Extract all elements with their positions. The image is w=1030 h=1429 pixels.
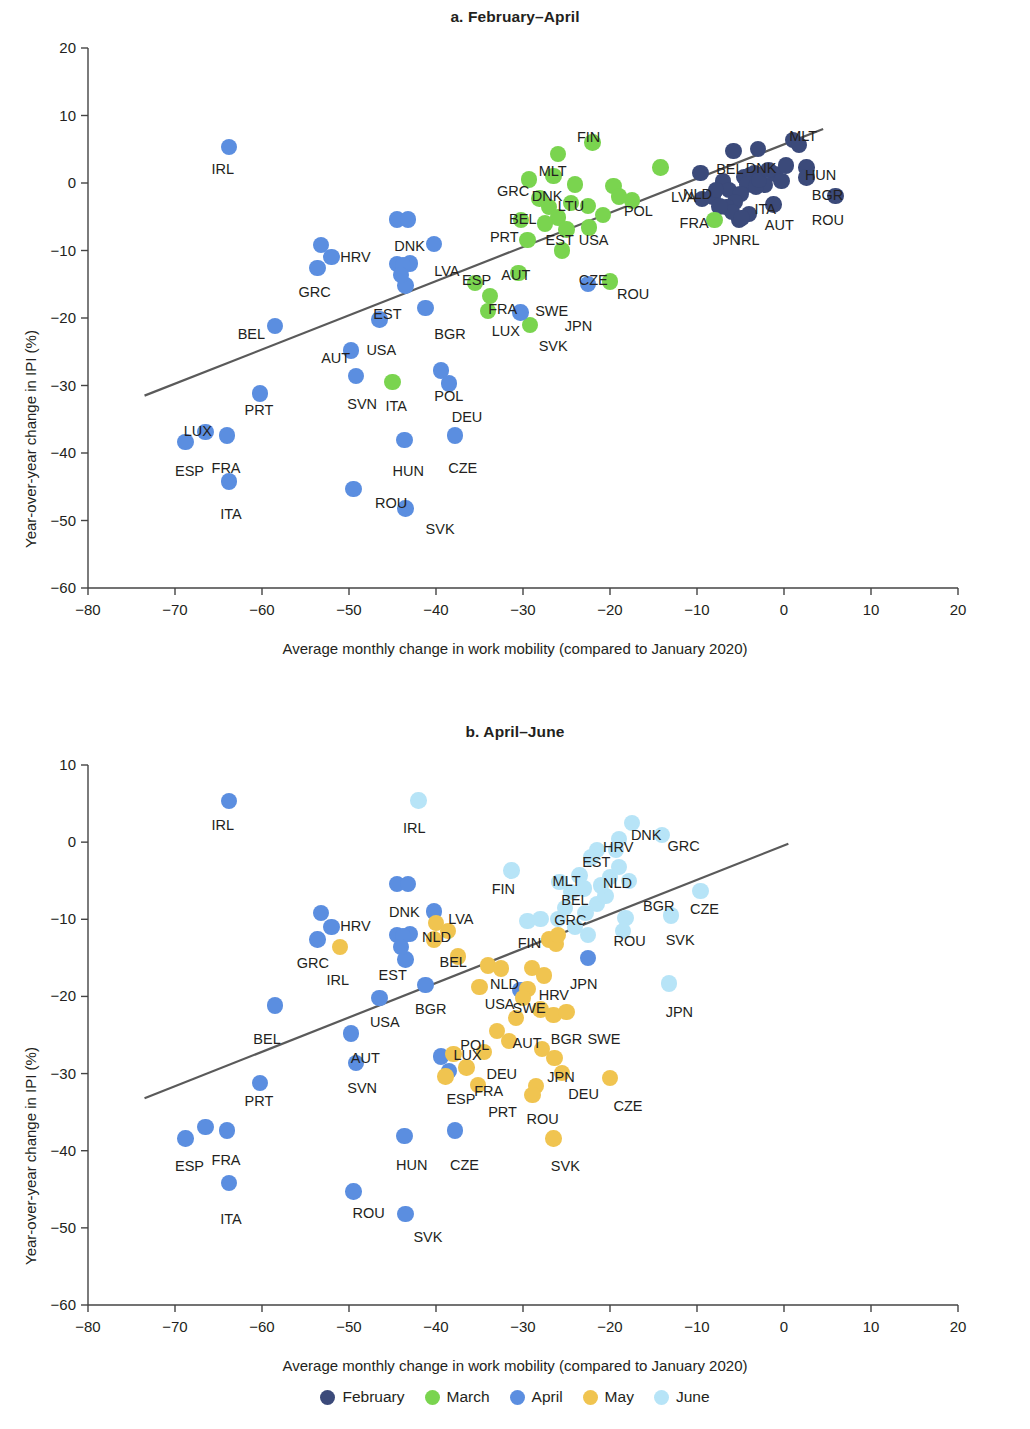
point-label: LVA <box>448 911 473 927</box>
figure-root: a. February–April 20100−10−20−30−40−50−6… <box>0 0 1030 1429</box>
point-label: ESP <box>462 272 491 288</box>
y-axis-tick-label: 0 <box>30 833 76 850</box>
point-label: GRC <box>667 838 699 854</box>
point-label: SWE <box>535 303 568 319</box>
point-label: GRC <box>554 912 586 928</box>
point-label: IRL <box>212 161 235 177</box>
point-label: IRL <box>403 820 426 836</box>
point-label: ITA <box>220 506 241 522</box>
legend-label: June <box>676 1388 710 1406</box>
point-label: LVA <box>434 263 459 279</box>
x-axis-tick-label: −70 <box>145 1318 205 1335</box>
point-label: GRC <box>297 955 329 971</box>
legend-label: April <box>532 1388 563 1406</box>
scatter-point <box>692 165 708 181</box>
x-axis-tick-label: −30 <box>493 1318 553 1335</box>
scatter-point <box>546 1050 562 1066</box>
point-label: POL <box>460 1037 489 1053</box>
point-label: CZE <box>690 901 719 917</box>
point-label: AUT <box>765 217 794 233</box>
legend-item-march[interactable]: March <box>425 1388 490 1406</box>
point-label: DNK <box>389 904 420 920</box>
point-label: IRL <box>212 817 235 833</box>
scatter-point <box>733 210 749 226</box>
point-label: IRL <box>737 232 760 248</box>
point-label: SVK <box>426 521 455 537</box>
point-label: SVN <box>347 396 377 412</box>
point-label: JPN <box>547 1069 574 1085</box>
scatter-point <box>323 249 339 265</box>
point-label: HRV <box>340 249 370 265</box>
point-label: FIN <box>492 881 515 897</box>
point-label: FRA <box>212 1152 241 1168</box>
legend-label: March <box>447 1388 490 1406</box>
scatter-point <box>471 979 487 995</box>
legend-item-february[interactable]: February <box>320 1388 404 1406</box>
point-label: FIN <box>577 129 600 145</box>
scatter-point <box>537 215 553 231</box>
point-label: AUT <box>513 1035 542 1051</box>
point-label: LTU <box>558 198 584 214</box>
point-label: SVK <box>413 1229 442 1245</box>
y-axis-tick-label: −20 <box>30 309 76 326</box>
point-label: AUT <box>351 1050 380 1066</box>
scatter-point <box>532 911 548 927</box>
legend-label: May <box>605 1388 634 1406</box>
y-axis-tick-label: 10 <box>30 107 76 124</box>
scatter-point <box>652 159 668 175</box>
point-label: DEU <box>486 1066 517 1082</box>
point-label: CZE <box>450 1157 479 1173</box>
scatter-point <box>550 146 566 162</box>
point-label: ROU <box>617 286 649 302</box>
point-label: ROU <box>526 1111 558 1127</box>
point-label: USA <box>366 342 396 358</box>
scatter-point <box>323 919 339 935</box>
x-axis-tick-label: −10 <box>667 601 727 618</box>
y-axis-title: Year-over-year change in IPI (%) <box>22 330 39 548</box>
point-label: EST <box>582 854 610 870</box>
point-label: EST <box>373 306 401 322</box>
scatter-point <box>567 176 583 192</box>
point-label: ITA <box>754 201 775 217</box>
point-label: EST <box>546 232 574 248</box>
point-label: PRT <box>245 1093 274 1109</box>
point-label: DNK <box>631 827 662 843</box>
point-label: GRC <box>299 284 331 300</box>
point-label: ROU <box>812 212 844 228</box>
scatter-point <box>661 975 677 991</box>
x-axis-tick-label: −60 <box>232 1318 292 1335</box>
x-axis-tick-label: −10 <box>667 1318 727 1335</box>
y-axis-title: Year-over-year change in IPI (%) <box>22 1047 39 1265</box>
x-axis-tick-label: −80 <box>58 601 118 618</box>
point-label: BEL <box>238 326 265 342</box>
point-label: SVK <box>666 932 695 948</box>
point-label: ROU <box>613 933 645 949</box>
scatter-point <box>437 1068 453 1084</box>
point-label: PRT <box>490 229 519 245</box>
scatter-point <box>611 859 627 875</box>
y-axis-tick-label: −60 <box>30 579 76 596</box>
point-label: NLD <box>603 875 632 891</box>
legend-item-may[interactable]: May <box>583 1388 634 1406</box>
point-label: LUX <box>184 423 212 439</box>
point-label: SVK <box>551 1158 580 1174</box>
x-axis-tick-label: −20 <box>580 601 640 618</box>
legend-item-april[interactable]: April <box>510 1388 563 1406</box>
point-label: NLD <box>422 929 451 945</box>
y-axis-tick-label: 20 <box>30 39 76 56</box>
legend-item-june[interactable]: June <box>654 1388 710 1406</box>
legend-swatch-icon <box>654 1390 669 1405</box>
point-label: HUN <box>393 463 424 479</box>
point-label: EST <box>379 967 407 983</box>
point-label: DNK <box>746 160 777 176</box>
scatter-point <box>692 883 708 899</box>
point-label: ROU <box>375 495 407 511</box>
panel-a-plot-area: 20100−10−20−30−40−50−60−80−70−60−50−40−3… <box>0 0 1030 690</box>
scatter-point <box>410 792 426 808</box>
point-label: JPN <box>666 1004 693 1020</box>
point-label: DEU <box>452 409 483 425</box>
scatter-point <box>447 1122 463 1138</box>
point-label: LUX <box>492 323 520 339</box>
point-label: POL <box>624 203 653 219</box>
scatter-point <box>396 432 412 448</box>
